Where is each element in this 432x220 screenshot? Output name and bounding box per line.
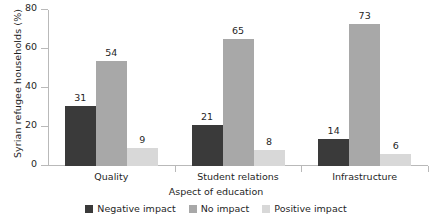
- legend: Negative impactNo impactPositive impact: [0, 203, 432, 214]
- bar-value-label: 8: [266, 136, 272, 147]
- legend-item[interactable]: No impact: [189, 203, 250, 214]
- bar: 31: [65, 106, 96, 166]
- y-axis-line: [48, 10, 49, 166]
- bar: 9: [127, 148, 158, 166]
- y-tick-label: 0: [31, 158, 37, 169]
- y-tick: 20: [41, 126, 48, 127]
- bar: 6: [380, 154, 411, 166]
- bar: 54: [96, 61, 127, 166]
- plot-area: 020406080 315492165814736: [48, 10, 428, 166]
- bar-value-label: 54: [105, 47, 117, 58]
- bar-value-label: 31: [74, 92, 86, 103]
- bar: 65: [223, 39, 254, 166]
- y-tick-label: 20: [25, 119, 37, 130]
- category-label: Student relations: [197, 171, 279, 182]
- bar-value-label: 65: [232, 25, 244, 36]
- bar: 8: [254, 150, 285, 166]
- x-axis-title: Aspect of education: [0, 186, 432, 197]
- legend-item[interactable]: Positive impact: [262, 203, 346, 214]
- category-label: Quality: [94, 171, 128, 182]
- bar-value-label: 14: [328, 125, 340, 136]
- bar-value-label: 21: [201, 111, 213, 122]
- x-axis-separator: [428, 166, 429, 172]
- bar: 73: [349, 24, 380, 166]
- x-axis-separator: [175, 166, 176, 172]
- legend-swatch-icon: [189, 205, 197, 213]
- legend-label: Positive impact: [274, 203, 346, 214]
- y-tick-label: 40: [25, 80, 37, 91]
- y-tick: 0: [41, 165, 48, 166]
- legend-item[interactable]: Negative impact: [85, 203, 175, 214]
- bar-value-label: 73: [359, 10, 371, 21]
- category-label: Infrastructure: [332, 171, 397, 182]
- bar-chart: Syrian refugee households (%) 020406080 …: [0, 0, 432, 220]
- y-tick-label: 80: [25, 2, 37, 13]
- y-tick: 60: [41, 48, 48, 49]
- bar-value-label: 9: [139, 134, 145, 145]
- y-tick: 40: [41, 87, 48, 88]
- y-tick-label: 60: [25, 41, 37, 52]
- legend-swatch-icon: [262, 205, 270, 213]
- x-axis-separator: [301, 166, 302, 172]
- legend-label: Negative impact: [97, 203, 175, 214]
- legend-label: No impact: [201, 203, 250, 214]
- bar: 21: [192, 125, 223, 166]
- bar: 14: [318, 139, 349, 166]
- y-tick: 80: [41, 9, 48, 10]
- legend-swatch-icon: [85, 205, 93, 213]
- bar-value-label: 6: [393, 140, 399, 151]
- y-axis-title: Syrian refugee households (%): [12, 4, 23, 164]
